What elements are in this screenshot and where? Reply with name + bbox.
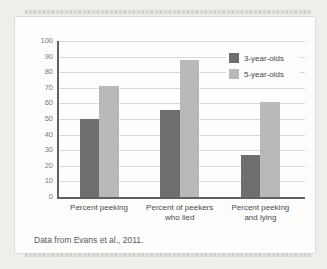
y-tick-label: 100 — [25, 36, 53, 45]
legend-label: 5-year-olds — [244, 70, 284, 79]
bottom-edge-texture — [25, 253, 311, 257]
figure-caption: Data from Evans et al., 2011. — [34, 235, 143, 245]
y-tick-label: 60 — [25, 98, 53, 107]
legend-label: 3-year-olds — [244, 54, 284, 63]
bar-3-year-olds-group3 — [241, 155, 261, 197]
legend-swatch-icon — [229, 53, 239, 63]
chart-legend: 3-year-olds5-year-olds — [226, 51, 300, 81]
y-tick-label: 40 — [25, 130, 53, 139]
figure-card: 3-year-olds5-year-olds 01020304050607080… — [14, 16, 316, 254]
y-tick-label: 0 — [25, 192, 53, 201]
y-tick-label: 30 — [25, 145, 53, 154]
legend-swatch-icon — [229, 69, 239, 79]
bar-5-year-olds-group3 — [260, 102, 280, 197]
y-tick-label: 70 — [25, 83, 53, 92]
y-tick-label: 90 — [25, 52, 53, 61]
y-tick-label: 50 — [25, 114, 53, 123]
gridline — [59, 41, 305, 42]
x-axis-label: Percent peekingand lying — [205, 203, 315, 223]
y-tick-label: 20 — [25, 161, 53, 170]
bar-3-year-olds-group1 — [80, 119, 100, 197]
plot-area: 3-year-olds5-year-olds 01020304050607080… — [57, 41, 305, 199]
x-axis-labels: Percent peekingPercent of peekerswho lie… — [59, 203, 305, 227]
y-tick-label: 80 — [25, 67, 53, 76]
top-edge-texture — [25, 10, 311, 14]
bar-5-year-olds-group1 — [99, 86, 119, 197]
legend-item: 5-year-olds — [229, 69, 300, 79]
bar-3-year-olds-group2 — [160, 110, 180, 197]
y-tick-label: 10 — [25, 176, 53, 185]
bar-5-year-olds-group2 — [180, 60, 200, 197]
page-background: 3-year-olds5-year-olds 01020304050607080… — [0, 0, 327, 269]
legend-item: 3-year-olds — [229, 53, 300, 63]
